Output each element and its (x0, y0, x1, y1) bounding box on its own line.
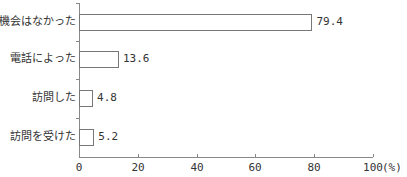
value-label: 4.8 (97, 91, 117, 105)
x-tick-label: 20 (131, 161, 144, 175)
y-axis-tick (76, 3, 79, 4)
x-axis-tick (197, 154, 198, 157)
y-axis-tick (76, 118, 79, 119)
x-axis-unit-label: (%) (382, 161, 402, 175)
category-label: 電話によった (10, 52, 76, 66)
x-axis-line (79, 157, 373, 158)
x-tick-label: 40 (190, 161, 203, 175)
horizontal-bar-chart: 機会はなかった 79.4 電話によった 13.6 訪問した 4.8 訪問を受けた… (0, 0, 407, 177)
category-label: 訪問を受けた (10, 130, 76, 144)
x-axis-tick (314, 154, 315, 157)
x-tick-label: 100 (363, 161, 383, 175)
value-label: 13.6 (123, 52, 150, 66)
value-label: 5.2 (98, 130, 118, 144)
y-axis-tick (76, 79, 79, 80)
value-label: 79.4 (316, 15, 343, 29)
category-label: 訪問した (32, 91, 76, 105)
x-axis-tick (255, 154, 256, 157)
x-axis-tick (79, 154, 80, 157)
x-tick-label: 0 (76, 161, 83, 175)
y-axis-tick (76, 41, 79, 42)
bar (79, 51, 119, 68)
bar (79, 90, 93, 107)
category-label: 機会はなかった (0, 15, 76, 29)
bar (79, 129, 94, 146)
x-tick-label: 80 (307, 161, 320, 175)
x-tick-label: 60 (248, 161, 261, 175)
bar (79, 14, 312, 31)
x-axis-tick (373, 154, 374, 157)
x-axis-tick (138, 154, 139, 157)
